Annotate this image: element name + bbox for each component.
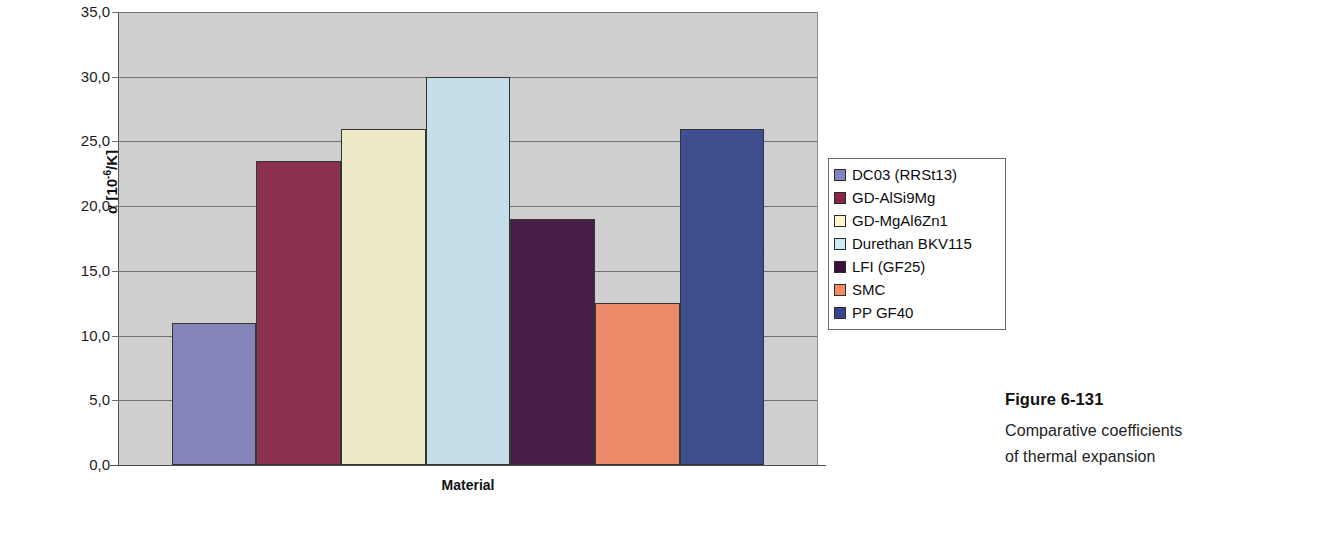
bar-slot [426,12,511,465]
legend-item[interactable]: DC03 (RRSt13) [834,163,1000,186]
y-tick-label: 10,0 [50,327,110,344]
caption-line-1: Comparative coefficients [1005,418,1305,444]
legend-item[interactable]: SMC [834,278,1000,301]
legend-item-label: DC03 (RRSt13) [852,167,957,182]
bar[interactable] [510,219,595,465]
chart-legend: DC03 (RRSt13)GD-AlSi9MgGD-MgAl6Zn1Dureth… [828,158,1006,330]
y-tick-label: 0,0 [50,456,110,473]
legend-item-label: GD-AlSi9Mg [852,190,935,205]
legend-item-label: GD-MgAl6Zn1 [852,213,948,228]
y-tick-mark [112,271,119,272]
legend-item[interactable]: GD-AlSi9Mg [834,186,1000,209]
legend-swatch-icon [834,284,846,296]
figure-caption: Figure 6-131 Comparative coefficients of… [1005,390,1305,470]
bar[interactable] [595,303,680,465]
legend-swatch-icon [834,192,846,204]
gridline [119,465,817,466]
legend-swatch-icon [834,215,846,227]
bar-slot [595,12,680,465]
bar[interactable] [341,129,426,466]
bars-layer [119,12,817,465]
caption-line-2: of thermal expansion [1005,444,1305,470]
bar[interactable] [680,129,765,466]
bar[interactable] [256,161,341,465]
bar-slot [341,12,426,465]
y-tick-label: 20,0 [50,197,110,214]
legend-item-label: Durethan BKV115 [852,236,972,251]
legend-item-label: PP GF40 [852,305,913,320]
caption-title: Figure 6-131 [1005,390,1305,409]
legend-swatch-icon [834,238,846,250]
x-axis-title: Material [118,477,818,493]
y-tick-label: 35,0 [50,3,110,20]
bar[interactable] [426,77,511,465]
bar-slot [256,12,341,465]
y-tick-mark [112,400,119,401]
y-axis-title-exponent: -6 [102,170,113,179]
bar-spacer [119,12,172,465]
y-tick-mark [112,336,119,337]
y-tick-label: 15,0 [50,262,110,279]
legend-item[interactable]: PP GF40 [834,301,1000,324]
legend-item-label: SMC [852,282,885,297]
bar[interactable] [172,323,257,465]
legend-swatch-icon [834,169,846,181]
figure-root: α [10-6/K] 0,05,010,015,020,025,030,035,… [0,0,1317,542]
legend-item[interactable]: GD-MgAl6Zn1 [834,209,1000,232]
y-tick-mark [112,12,119,13]
y-tick-mark [112,77,119,78]
legend-item[interactable]: LFI (GF25) [834,255,1000,278]
legend-swatch-icon [834,307,846,319]
legend-item-label: LFI (GF25) [852,259,925,274]
bar-chart: α [10-6/K] 0,05,010,015,020,025,030,035,… [0,0,840,500]
y-tick-mark [112,141,119,142]
bar-spacer [764,12,817,465]
bar-slot [172,12,257,465]
y-tick-label: 30,0 [50,68,110,85]
bar-slot [510,12,595,465]
y-tick-label: 5,0 [50,391,110,408]
y-tick-mark [112,206,119,207]
legend-swatch-icon [834,261,846,273]
legend-item[interactable]: Durethan BKV115 [834,232,1000,255]
plot-area: 0,05,010,015,020,025,030,035,0 [118,12,818,465]
bar-slot [680,12,765,465]
y-tick-label: 25,0 [50,132,110,149]
